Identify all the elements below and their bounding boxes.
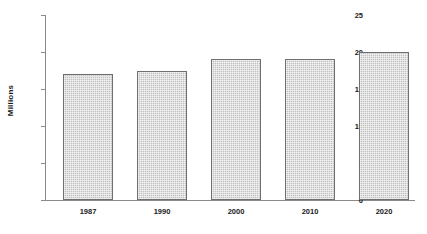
plot-area: 0510152025 19871990200020102020 [45,15,415,200]
y-axis-title-text: Millions [7,84,16,115]
y-tick-mark [41,200,46,201]
x-axis-label: 2020 [376,207,393,216]
x-axis-label: 1990 [154,207,171,216]
y-tick-mark [41,126,46,127]
y-tick-mark [41,163,46,164]
bar-chart: Millions 0510152025 19871990200020102020 [0,0,427,234]
y-axis-title: Millions [2,0,20,200]
bar [285,59,335,200]
bar [359,52,409,200]
x-axis-label: 1987 [80,207,97,216]
x-axis-label: 2000 [228,207,245,216]
bar [211,59,261,200]
bar [137,71,187,201]
y-tick-mark [41,52,46,53]
y-axis-line [45,15,46,200]
y-tick-mark [41,89,46,90]
x-axis-label: 2010 [302,207,319,216]
y-tick-mark [41,15,46,16]
y-tick-label: 25 [341,11,363,20]
bar [63,74,113,200]
